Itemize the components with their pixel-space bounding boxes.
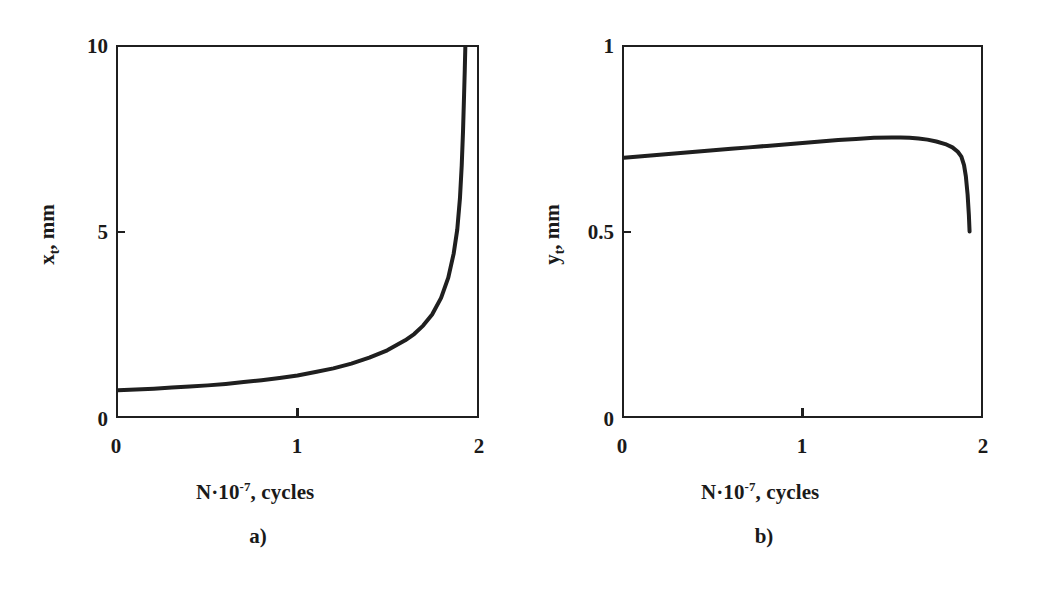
x-tick-label-a-2: 2 — [461, 436, 497, 457]
x-axis-title-a-prefix: N·10 — [196, 480, 240, 504]
x-tick-label-b-2: 2 — [965, 436, 1001, 457]
x-axis-title-b-prefix: N·10 — [701, 480, 745, 504]
y-tick-label-b-0: 0 — [559, 409, 614, 430]
y-axis-title-b-var: y — [540, 254, 564, 265]
x-axis-title-a: N·10-7, cycles — [196, 480, 314, 505]
x-tick-label-b-0: 0 — [604, 436, 640, 457]
y-axis-title-a-var: x — [35, 254, 59, 265]
x-tick-label-a-0: 0 — [98, 436, 134, 457]
figure-container: 10 5 0 0 1 2 N·10-7, cycles xt, mm a) 1 … — [0, 0, 1038, 597]
x-tick-label-a-1: 1 — [279, 436, 315, 457]
y-axis-title-b: yt, mm — [540, 170, 565, 300]
y-tick-label-b-1: 1 — [559, 36, 614, 57]
plot-frame-b — [622, 45, 983, 418]
y-axis-title-a: xt, mm — [35, 170, 60, 300]
y-axis-title-a-suffix: , mm — [35, 204, 59, 250]
y-axis-title-b-sub: t — [552, 250, 567, 255]
plot-frame-a — [116, 45, 479, 418]
x-axis-title-b-exponent: -7 — [745, 479, 756, 494]
x-axis-title-a-exponent: -7 — [240, 479, 251, 494]
plot-curve-a — [118, 47, 477, 416]
x-tick-mark-b-1 — [801, 408, 803, 418]
y-axis-title-a-sub: t — [47, 250, 62, 255]
panel-caption-b: b) — [724, 524, 804, 549]
y-tick-mark-b-05 — [622, 231, 631, 233]
panel-caption-a: a) — [218, 524, 298, 549]
x-axis-title-b: N·10-7, cycles — [701, 480, 819, 505]
panel-a: 10 5 0 0 1 2 N·10-7, cycles xt, mm a) — [0, 0, 519, 597]
y-tick-label-a-10: 10 — [66, 36, 108, 57]
x-axis-title-a-suffix: , cycles — [251, 480, 315, 504]
x-axis-title-b-suffix: , cycles — [756, 480, 820, 504]
y-tick-label-a-0: 0 — [66, 409, 108, 430]
y-tick-mark-a-5 — [116, 231, 125, 233]
y-tick-label-a-5: 5 — [66, 222, 108, 243]
y-axis-title-b-suffix: , mm — [540, 204, 564, 250]
plot-curve-b — [624, 47, 981, 416]
x-tick-mark-a-1 — [296, 408, 298, 418]
panel-b: 1 0.5 0 0 1 2 N·10-7, cycles yt, mm b) — [519, 0, 1038, 597]
y-tick-label-b-05: 0.5 — [559, 222, 614, 243]
x-tick-label-b-1: 1 — [784, 436, 820, 457]
